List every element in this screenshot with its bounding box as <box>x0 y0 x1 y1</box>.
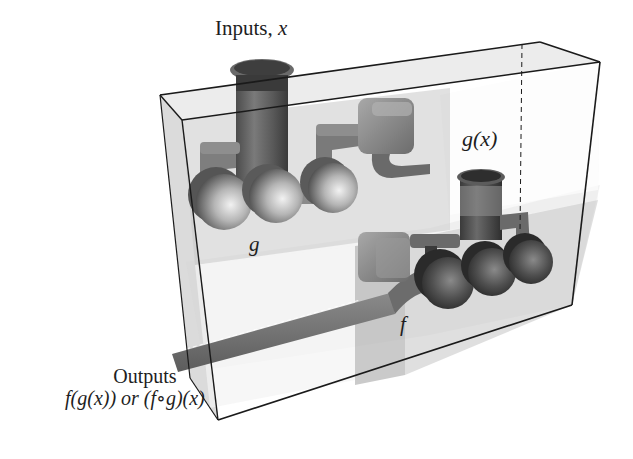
outputs-title: Outputs <box>65 365 205 387</box>
g-machine-label: g <box>249 232 260 257</box>
outputs-label: Outputs f(g(x)) or (f∘g)(x) <box>65 365 205 409</box>
outputs-expression: f(g(x)) or (f∘g)(x) <box>65 387 205 409</box>
inputs-label-text: Inputs, <box>215 16 278 40</box>
inputs-variable: x <box>278 16 287 40</box>
inputs-label: Inputs, x <box>215 16 287 41</box>
composition-machine-diagram: Inputs, x g(x) g f Outputs f(g(x)) or (f… <box>0 0 633 459</box>
f-machine-label: f <box>400 312 406 337</box>
g-of-x-label: g(x) <box>462 126 497 152</box>
